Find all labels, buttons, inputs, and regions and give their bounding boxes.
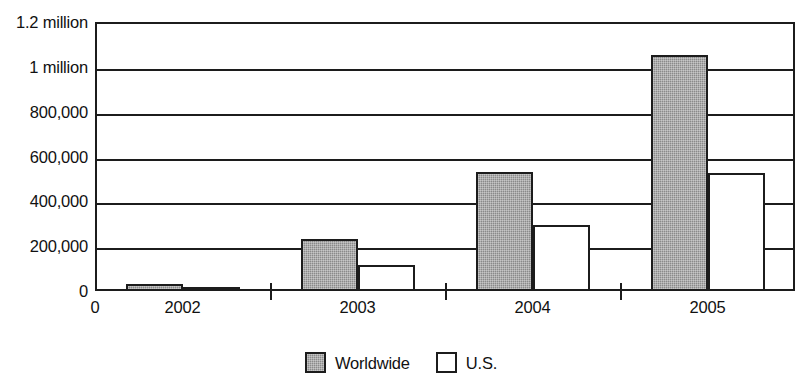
y-tick-label-200000: 200,000	[0, 238, 88, 254]
gridline-400000	[97, 203, 793, 205]
y-axis-labels: 1.2 million 1 million 800,000 600,000 40…	[0, 0, 88, 300]
bar-chart-figure: 1.2 million 1 million 800,000 600,000 40…	[0, 0, 802, 390]
legend-entry-us: U.S.	[436, 352, 497, 373]
x-tick-label-2005: 2005	[620, 297, 795, 317]
legend-label-us: U.S.	[466, 354, 497, 372]
chart-legend: Worldwide U.S.	[0, 352, 802, 373]
plot-area	[95, 22, 795, 291]
gridline-800000	[97, 114, 793, 116]
gridline-1000000	[97, 69, 793, 71]
legend-swatch-worldwide-icon	[305, 352, 326, 373]
y-tick-label-600000: 600,000	[0, 149, 88, 165]
y-tick-label-400000: 400,000	[0, 193, 88, 209]
legend-swatch-us-icon	[436, 352, 457, 373]
x-tick-label-2004: 2004	[445, 297, 620, 317]
x-axis-labels: 2002 2003 2004 2005	[0, 297, 802, 323]
gridline-600000	[97, 159, 793, 161]
gridline-200000	[97, 248, 793, 250]
y-tick-label-1200000: 1.2 million	[0, 14, 88, 30]
y-tick-label-1000000: 1 million	[0, 59, 88, 75]
x-tick-label-2003: 2003	[270, 297, 445, 317]
legend-label-worldwide: Worldwide	[335, 354, 410, 372]
y-tick-label-800000: 800,000	[0, 104, 88, 120]
x-tick-label-2002: 2002	[95, 297, 270, 317]
legend-entry-worldwide: Worldwide	[305, 352, 410, 373]
